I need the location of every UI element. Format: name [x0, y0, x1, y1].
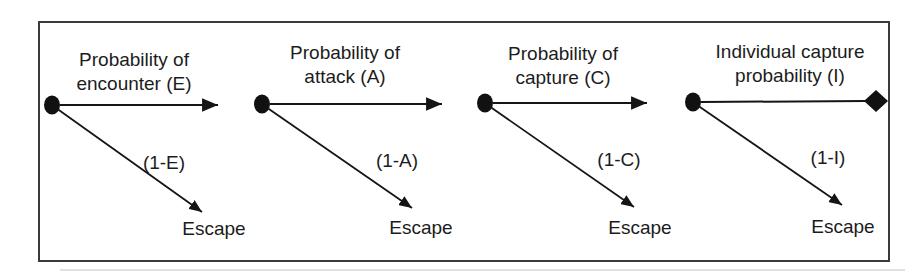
stage3-node-dot [477, 94, 493, 113]
stage4-terminal-diamond [864, 90, 888, 112]
scan-artifact-line [60, 269, 905, 271]
stage4-title-line2: probability (I) [716, 64, 865, 88]
stage3-title-line2: capture (C) [508, 66, 618, 90]
stage4-node-dot [685, 93, 701, 112]
stage3-title-line1: Probability of [508, 42, 618, 66]
stage4-escape-label: Escape [811, 215, 874, 239]
stage4-title: Individual capture probability (I) [716, 40, 865, 88]
stage1-branch-label: (1-E) [143, 151, 185, 175]
stage4-branch-label: (1-I) [811, 146, 846, 170]
stage3-escape-label: Escape [608, 216, 671, 240]
stage3-title: Probability of capture (C) [508, 42, 618, 90]
stage2-title-line2: attack (A) [290, 65, 400, 89]
stage1-title-line2: encounter (E) [76, 72, 191, 96]
stage2-branch-label: (1-A) [376, 149, 418, 173]
stage1-node-dot [44, 96, 60, 115]
stage1-title: Probability of encounter (E) [76, 48, 191, 96]
figure-canvas: Probability of encounter (E) (1-E) Escap… [0, 0, 922, 276]
stage2-node-dot [254, 95, 270, 114]
stage1-title-line1: Probability of [76, 48, 191, 72]
stage4-title-line1: Individual capture [716, 40, 865, 64]
stage2-title-line1: Probability of [290, 41, 400, 65]
stage4-transition-line [701, 101, 866, 102]
stage3-branch-label: (1-C) [597, 148, 640, 172]
stage2-escape-label: Escape [389, 216, 452, 240]
stage1-escape-label: Escape [182, 217, 245, 241]
stage2-title: Probability of attack (A) [290, 41, 400, 89]
